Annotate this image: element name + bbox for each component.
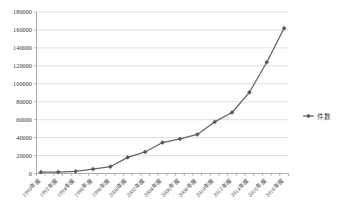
line-chart: 0200004000060000800001000001200001400001… xyxy=(0,0,345,221)
data-series-group xyxy=(39,26,287,174)
x-axis-tick-labels: 1990年度1992年度1994年度1996年度1998年度2000年度2002… xyxy=(20,177,285,199)
y-tick-label: 0 xyxy=(29,170,32,177)
legend-marker xyxy=(306,114,310,118)
legend-label: 件数 xyxy=(317,112,331,121)
y-tick-label: 180000 xyxy=(13,8,32,15)
chart-container: 0200004000060000800001000001200001400001… xyxy=(0,0,345,221)
chart-legend: 件数 xyxy=(303,112,331,121)
x-tick-marks-group xyxy=(37,174,289,177)
y-tick-label: 100000 xyxy=(13,80,32,87)
gridlines-group xyxy=(37,12,289,156)
data-point-marker xyxy=(282,26,286,30)
y-tick-label: 40000 xyxy=(16,134,32,141)
y-tick-label: 140000 xyxy=(13,44,32,51)
y-tick-label: 80000 xyxy=(16,98,32,105)
x-tick-label: 2018年度 xyxy=(264,177,286,199)
y-tick-label: 160000 xyxy=(13,26,32,33)
y-tick-label: 60000 xyxy=(16,116,32,123)
y-tick-label: 20000 xyxy=(16,152,32,159)
y-tick-marks-group xyxy=(34,12,37,174)
data-point-marker xyxy=(74,169,78,173)
y-axis-tick-labels: 0200004000060000800001000001200001400001… xyxy=(13,8,32,177)
data-point-marker xyxy=(91,167,95,171)
y-tick-label: 120000 xyxy=(13,62,32,69)
series-line xyxy=(41,28,284,172)
